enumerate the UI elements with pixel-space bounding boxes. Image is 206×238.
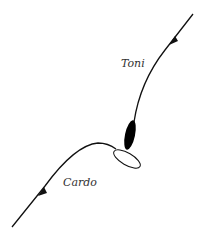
toni-arrow-icon <box>169 36 178 45</box>
cardo-label: Cardo <box>63 176 97 189</box>
white-ellipse <box>111 146 143 171</box>
diagram-canvas: Toni Cardo <box>0 0 206 238</box>
toni-label: Toni <box>121 57 145 70</box>
black-ellipse <box>122 119 138 150</box>
diagram-svg <box>0 0 206 238</box>
